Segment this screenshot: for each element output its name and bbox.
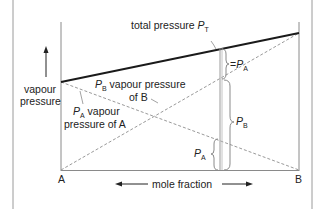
total-pressure-leader [211, 41, 216, 49]
x-axis-label: mole fraction [152, 178, 212, 190]
pb-vapour-label: PB vapour pressure [95, 78, 186, 92]
brace-top-label: =PA [230, 58, 248, 72]
corner-label-b: B [295, 173, 302, 185]
brace-mid-label: PB [236, 115, 248, 129]
x-arrow-right-head-icon [246, 182, 253, 187]
brace-low-pa [211, 139, 218, 170]
pa-label-leader [80, 91, 83, 104]
pa-vapour-label: PA vapour [73, 105, 120, 119]
y-axis-label-line1: vapour [24, 83, 57, 95]
brace-low-label: PA [194, 147, 206, 161]
x-arrow-left-head-icon [115, 182, 122, 187]
brace-top-pa [222, 49, 229, 79]
y-axis-label-line2: pressure [20, 95, 61, 107]
vapour-pressure-b-line [61, 33, 299, 170]
pa-vapour-label-line2: pressure of A [64, 118, 126, 130]
y-arrow-head-icon [44, 46, 49, 53]
raoult-diagram: total pressure PT PB vapour pressure of … [0, 0, 321, 209]
pb-label-leader [151, 99, 158, 103]
pb-vapour-label-line2: of B [129, 91, 148, 103]
total-pressure-label: total pressure PT [131, 19, 210, 33]
total-pressure-line [61, 33, 299, 82]
brace-mid-pb [224, 80, 234, 170]
corner-label-a: A [58, 173, 65, 185]
